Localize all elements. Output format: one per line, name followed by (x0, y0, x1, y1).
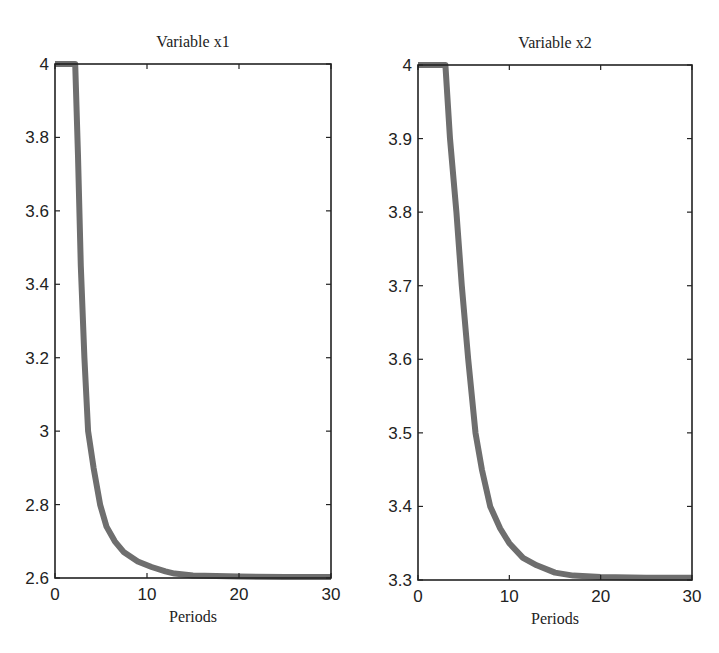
x-tick-label: 10 (500, 587, 519, 606)
x-tick-label: 0 (50, 585, 59, 604)
y-tick-label: 3.5 (388, 424, 412, 443)
x-axis-label: Periods (531, 610, 579, 627)
y-tick-label: 3.4 (388, 497, 412, 516)
data-line (418, 65, 692, 578)
y-tick-label: 2.8 (25, 496, 49, 515)
y-tick-label: 3.9 (388, 130, 412, 149)
y-tick-label: 3.8 (388, 203, 412, 222)
y-tick-label: 3.4 (25, 275, 49, 294)
subplot-1: 2.62.833.23.43.63.840102030Variable x1Pe… (25, 33, 340, 625)
axes-frame (418, 65, 692, 580)
x-tick-label: 10 (138, 585, 157, 604)
x-tick-label: 30 (683, 587, 702, 606)
chart-title: Variable x2 (518, 34, 591, 51)
y-tick-label: 3.2 (25, 349, 49, 368)
y-tick-label: 3.3 (388, 571, 412, 590)
x-tick-label: 30 (322, 585, 341, 604)
y-tick-label: 3.7 (388, 277, 412, 296)
data-line (55, 64, 331, 577)
x-tick-label: 0 (413, 587, 422, 606)
y-tick-label: 3.8 (25, 128, 49, 147)
y-tick-label: 3 (40, 422, 49, 441)
y-tick-label: 3.6 (388, 350, 412, 369)
y-tick-label: 4 (403, 56, 412, 75)
subplot-2: 3.33.43.53.63.73.83.940102030Variable x2… (388, 34, 701, 627)
y-tick-label: 3.6 (25, 202, 49, 221)
chart-title: Variable x1 (156, 33, 229, 50)
y-tick-label: 4 (40, 55, 49, 74)
x-tick-label: 20 (230, 585, 249, 604)
y-tick-label: 2.6 (25, 569, 49, 588)
x-tick-label: 20 (591, 587, 610, 606)
x-axis-label: Periods (169, 608, 217, 625)
figure: 2.62.833.23.43.63.840102030Variable x1Pe… (0, 0, 719, 653)
